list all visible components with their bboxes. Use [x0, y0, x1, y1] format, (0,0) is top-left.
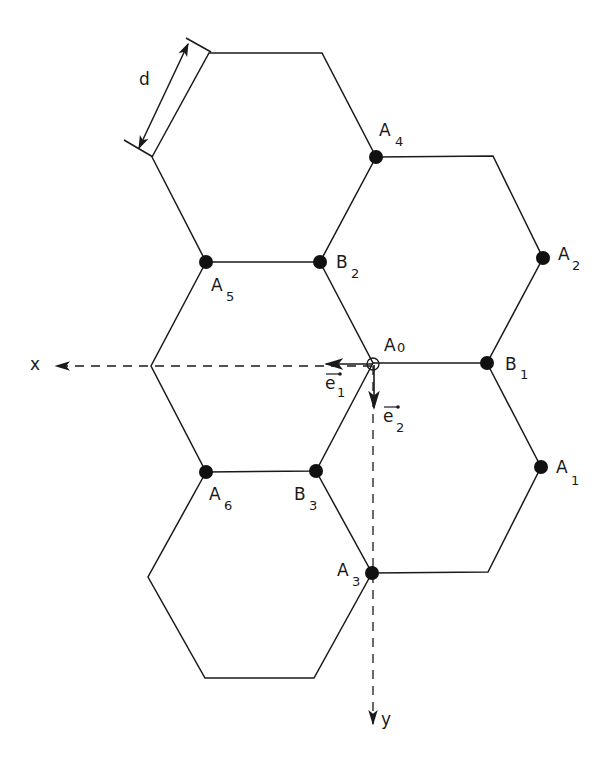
- point-label-a4: A 4: [379, 120, 403, 149]
- svg-text:3: 3: [309, 498, 317, 513]
- svg-text:B: B: [505, 354, 517, 374]
- svg-text:2: 2: [572, 258, 580, 273]
- svg-text:A: A: [556, 457, 568, 477]
- point-label-a3: A 3: [337, 560, 360, 589]
- svg-text:A: A: [209, 484, 221, 504]
- hexagon-top: [152, 53, 376, 262]
- hexagon-middle-left: [151, 262, 373, 472]
- point-label-b2: B 2: [336, 252, 359, 281]
- x-axis-label: x: [30, 354, 40, 374]
- point-a1-marker: [534, 460, 548, 474]
- point-a6-marker: [199, 465, 213, 479]
- point-label-a1: A 1: [556, 457, 579, 488]
- svg-text:A: A: [384, 335, 396, 355]
- point-a2-marker: [536, 251, 550, 265]
- point-label-b1: B 1: [505, 354, 528, 382]
- point-b1-marker: [480, 356, 494, 370]
- y-axis-label: y: [381, 709, 391, 729]
- svg-text:A: A: [379, 120, 391, 140]
- svg-text:5: 5: [226, 289, 234, 304]
- dimension-d-marker: [124, 38, 211, 157]
- point-label-a0: A 0: [384, 335, 405, 355]
- svg-text:2: 2: [396, 420, 404, 435]
- point-a4-marker: [369, 150, 383, 164]
- svg-text:A: A: [211, 275, 223, 295]
- svg-text:A: A: [558, 244, 570, 264]
- vector-e1-label: e 1: [325, 372, 345, 400]
- svg-text:A: A: [337, 560, 349, 580]
- point-label-b3: B 3: [294, 484, 317, 513]
- svg-text:1: 1: [337, 385, 345, 400]
- point-b2-marker: [313, 255, 327, 269]
- svg-text:B: B: [294, 484, 306, 504]
- dimension-label-d: d: [139, 69, 150, 89]
- point-label-a2: A 2: [558, 244, 580, 273]
- honeycomb-lattice-diagram: d x y e 1 e 2 A 4: [0, 0, 609, 757]
- point-a3-marker: [365, 566, 379, 580]
- svg-text:1: 1: [520, 367, 528, 382]
- point-label-a6: A 6: [209, 484, 232, 513]
- axes: [56, 366, 373, 724]
- svg-text:1: 1: [571, 473, 579, 488]
- svg-text:4: 4: [395, 134, 403, 149]
- hexagon-lower-right: [316, 363, 541, 573]
- point-b3-marker: [309, 464, 323, 478]
- point-a5-marker: [199, 255, 213, 269]
- svg-text:2: 2: [351, 266, 359, 281]
- svg-text:3: 3: [352, 574, 360, 589]
- svg-text:B: B: [336, 252, 348, 272]
- svg-text:e: e: [383, 406, 393, 426]
- svg-text:e: e: [325, 373, 335, 393]
- svg-text:0: 0: [397, 340, 405, 355]
- vector-e2-label: e 2: [383, 405, 404, 435]
- point-label-a5: A 5: [211, 275, 234, 304]
- hexagon-upper-right: [320, 156, 543, 363]
- svg-text:6: 6: [224, 498, 232, 513]
